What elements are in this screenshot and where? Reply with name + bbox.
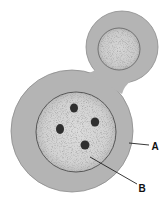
label-a: A: [152, 141, 159, 152]
bud-nucleus-stipple: [98, 28, 140, 70]
chromatin-blob: [91, 118, 99, 127]
yeast-cell-diagram: A B: [0, 0, 168, 199]
chromatin-blob: [56, 124, 64, 134]
nucleus-stipple: [36, 92, 116, 172]
label-b: B: [139, 183, 146, 194]
chromatin-blob: [70, 104, 78, 113]
chromatin-blob: [81, 141, 90, 150]
